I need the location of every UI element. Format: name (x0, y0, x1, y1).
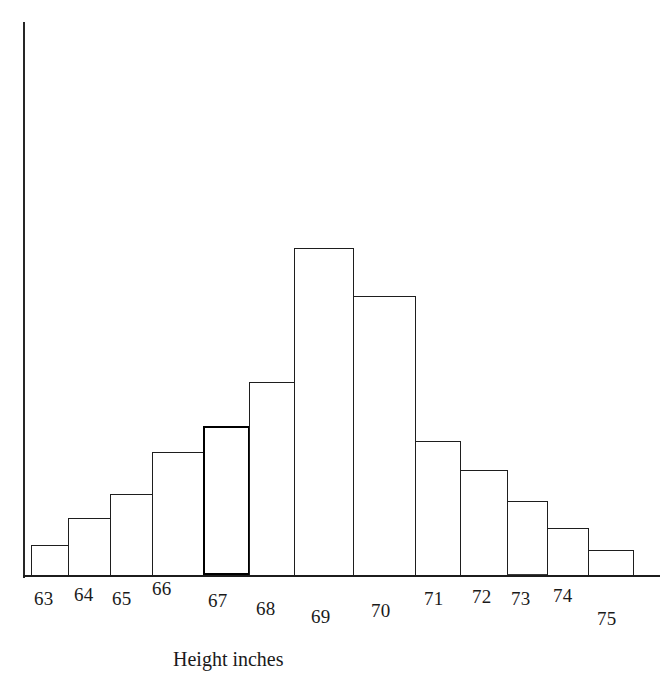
histogram-bar-72 (460, 470, 508, 575)
histogram-bar-75 (588, 550, 634, 575)
x-tick-label-70: 70 (371, 600, 391, 622)
histogram-bar-64 (68, 518, 111, 575)
x-tick-label-74: 74 (553, 585, 573, 607)
x-tick-label-63: 63 (34, 588, 54, 610)
x-tick-label-64: 64 (74, 584, 94, 606)
histogram-bar-65 (110, 494, 153, 575)
histogram-bar-71 (415, 441, 461, 575)
x-tick-label-65: 65 (112, 588, 132, 610)
histogram-bar-66 (152, 452, 204, 575)
x-tick-label-66: 66 (152, 578, 172, 600)
histogram-bar-68 (249, 382, 297, 575)
x-tick-label-67: 67 (208, 590, 228, 612)
histogram-bar-67 (203, 426, 250, 575)
x-tick-label-71: 71 (424, 588, 444, 610)
histogram-bar-63 (31, 545, 69, 575)
x-tick-label-73: 73 (511, 588, 531, 610)
x-tick-label-69: 69 (311, 606, 331, 628)
histogram-bar-73 (507, 501, 548, 575)
histogram-bar-74 (547, 528, 589, 575)
histogram-figure: 63646566676869707172737475 Height inches (0, 0, 665, 695)
x-tick-label-68: 68 (256, 598, 276, 620)
x-axis-title: Height inches (173, 648, 284, 671)
histogram-bar-69 (294, 248, 354, 575)
x-tick-label-75: 75 (597, 608, 617, 630)
x-tick-label-72: 72 (472, 586, 492, 608)
histogram-bar-70 (353, 296, 416, 575)
